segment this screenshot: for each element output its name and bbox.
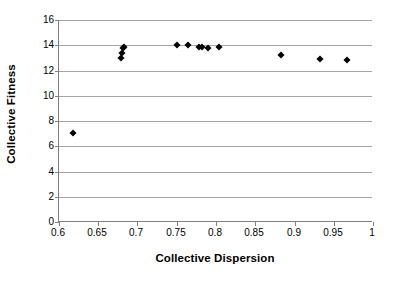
x-tick-0.75 bbox=[177, 222, 178, 226]
y-tick-label-10: 10 bbox=[28, 91, 54, 101]
y-tick-2 bbox=[55, 197, 59, 198]
y-axis-title-label: Collective Fitness bbox=[5, 64, 17, 164]
x-tick-0.8 bbox=[216, 222, 217, 226]
x-tick-0.6 bbox=[59, 222, 60, 226]
data-point bbox=[184, 41, 191, 48]
y-tick-label-4: 4 bbox=[28, 167, 54, 177]
gridline-y-6 bbox=[59, 146, 372, 147]
x-axis-tick-labels: 0.60.650.70.750.80.850.90.951 bbox=[58, 228, 372, 242]
data-point bbox=[173, 42, 180, 49]
y-tick-label-8: 8 bbox=[28, 116, 54, 126]
x-tick-0.85 bbox=[255, 222, 256, 226]
gridline-y-16 bbox=[59, 20, 372, 21]
x-tick-0.65 bbox=[98, 222, 99, 226]
x-tick-label-0.9: 0.9 bbox=[272, 228, 316, 238]
x-tick-label-0.95: 0.95 bbox=[311, 228, 355, 238]
y-tick-14 bbox=[55, 45, 59, 46]
y-axis-tick-labels: 1614121086420 bbox=[24, 20, 54, 222]
x-tick-label-0.75: 0.75 bbox=[154, 228, 198, 238]
y-tick-label-14: 14 bbox=[28, 40, 54, 50]
x-tick-label-0.85: 0.85 bbox=[232, 228, 276, 238]
y-tick-12 bbox=[55, 71, 59, 72]
y-tick-16 bbox=[55, 20, 59, 21]
x-tick-label-0.7: 0.7 bbox=[114, 228, 158, 238]
data-point bbox=[344, 57, 351, 64]
plot-area bbox=[58, 20, 372, 222]
x-tick-0.9 bbox=[295, 222, 296, 226]
y-tick-10 bbox=[55, 96, 59, 97]
y-tick-label-0: 0 bbox=[28, 217, 54, 227]
y-tick-label-12: 12 bbox=[28, 66, 54, 76]
scatter-chart: Collective Fitness 1614121086420 0.60.65… bbox=[0, 0, 395, 281]
y-axis-title: Collective Fitness bbox=[0, 0, 22, 228]
y-tick-label-2: 2 bbox=[28, 192, 54, 202]
data-point bbox=[278, 51, 285, 58]
gridline-y-4 bbox=[59, 172, 372, 173]
y-tick-6 bbox=[55, 146, 59, 147]
data-point bbox=[316, 56, 323, 63]
x-axis-title: Collective Dispersion bbox=[58, 252, 372, 264]
x-tick-0.7 bbox=[137, 222, 138, 226]
x-tick-1 bbox=[373, 222, 374, 226]
data-point bbox=[70, 129, 77, 136]
gridline-y-12 bbox=[59, 71, 372, 72]
y-tick-4 bbox=[55, 172, 59, 173]
y-tick-8 bbox=[55, 121, 59, 122]
gridline-y-2 bbox=[59, 197, 372, 198]
x-tick-0.95 bbox=[334, 222, 335, 226]
y-tick-label-6: 6 bbox=[28, 141, 54, 151]
x-tick-label-0.65: 0.65 bbox=[75, 228, 119, 238]
gridline-y-8 bbox=[59, 121, 372, 122]
x-tick-label-1: 1 bbox=[350, 228, 394, 238]
gridline-y-10 bbox=[59, 96, 372, 97]
x-tick-label-0.6: 0.6 bbox=[36, 228, 80, 238]
x-tick-label-0.8: 0.8 bbox=[193, 228, 237, 238]
y-tick-label-16: 16 bbox=[28, 15, 54, 25]
